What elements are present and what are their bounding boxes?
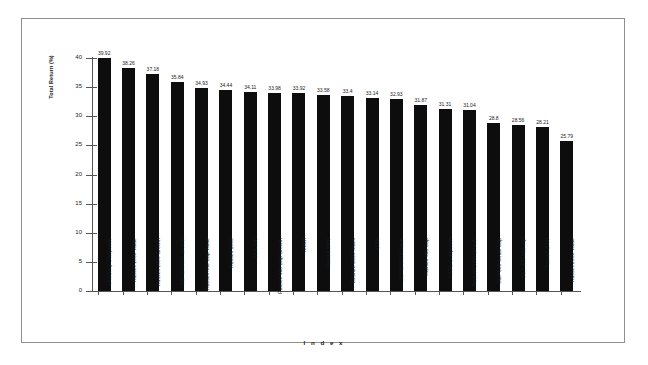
bar-value-label: 34.93	[188, 80, 215, 86]
x-axis-tick-mark	[342, 291, 343, 295]
y-axis-tick-label: 10	[75, 229, 82, 235]
bar-value-label: 28.21	[529, 119, 556, 125]
bar-value-label: 32.93	[383, 91, 410, 97]
y-axis-tick-label: 0	[79, 287, 82, 293]
y-axis-tick-label: 35	[75, 83, 82, 89]
x-axis-tick-mark	[488, 291, 489, 295]
x-axis-label: AMWI	[301, 238, 307, 298]
x-axis-label: NASDAQ Composite	[106, 238, 112, 298]
x-axis-tick-mark	[390, 291, 391, 295]
y-axis-tick: 30	[22, 116, 92, 117]
bar-value-label: 31.31	[432, 101, 459, 107]
x-axis-label: Russell 1000	[228, 238, 234, 298]
x-axis-tick-mark	[98, 291, 99, 295]
y-axis-tick: 40	[22, 58, 92, 59]
bar-value-label: 33.4	[334, 88, 361, 94]
x-axis-label: Russell 1000 Growth	[155, 238, 161, 298]
y-axis-tick: 10	[22, 233, 92, 234]
plot-area: 39.9238.2637.1835.8434.9334.4434.1133.98…	[92, 58, 579, 291]
bar-value-label: 31.87	[407, 97, 434, 103]
x-axis-label: Russell Mid Cap	[423, 238, 429, 298]
x-axis-label: Russell Mid Cap Value	[204, 238, 210, 298]
x-axis-tick-mark	[171, 291, 172, 295]
x-axis-tick-mark	[220, 291, 221, 295]
bar-value-label: 25.79	[553, 133, 580, 139]
y-axis-tick-label: 15	[75, 200, 82, 206]
x-axis-label: DJIA	[374, 238, 380, 298]
y-axis-tick: 5	[22, 262, 92, 263]
x-axis-tick-mark	[512, 291, 513, 295]
bar-value-label: 28.56	[505, 117, 532, 123]
y-axis-tick: 35	[22, 87, 92, 88]
bar-value-label: 34.44	[212, 82, 239, 88]
x-axis-tick-mark	[196, 291, 197, 295]
bar-value-label: 39.92	[91, 50, 118, 56]
y-axis-tick-label: 30	[75, 112, 82, 118]
x-axis-tick-mark	[269, 291, 270, 295]
x-axis-tick-mark	[463, 291, 464, 295]
x-axis-tick-mark	[536, 291, 537, 295]
x-axis-label: S&P 600 Small Cap	[496, 238, 502, 298]
bar-value-label: 33.14	[359, 90, 386, 96]
x-axis-tick-mark	[317, 291, 318, 295]
x-axis-tick-mark	[123, 291, 124, 295]
x-axis-label: Wilshire 5000 Index	[350, 238, 356, 298]
x-axis-line	[92, 291, 581, 292]
bar-value-label: 37.18	[139, 66, 166, 72]
bar-value-label: 28.8	[480, 115, 507, 121]
bar-value-label: 31.04	[456, 102, 483, 108]
x-axis-title: I n d e x	[22, 339, 626, 346]
chart-frame: Total Return (%) 4035302520151050 39.923…	[21, 18, 625, 343]
x-axis-label: Russell 2000 Value	[569, 238, 575, 298]
y-axis-tick-label: 20	[75, 171, 82, 177]
x-axis-label: Russell 2000	[544, 238, 550, 298]
x-axis-label: Russell 1000 Value	[131, 238, 137, 298]
y-axis-tick: 25	[22, 145, 92, 146]
x-axis-label: S&P 500	[252, 238, 258, 298]
bar-value-label: 38.26	[115, 60, 142, 66]
x-axis-label: S&P 400 Mid-cap	[520, 238, 526, 298]
x-axis-tick-mark	[415, 291, 416, 295]
bar-value-label: 33.58	[310, 87, 337, 93]
y-axis-tick: 0	[22, 291, 92, 292]
x-axis-tick-mark	[293, 291, 294, 295]
y-axis-tick-label: 5	[79, 258, 82, 264]
x-axis-label: Russell 3000	[325, 238, 331, 298]
bar-value-label: 33.98	[261, 85, 288, 91]
y-axis-tick: 15	[22, 204, 92, 205]
bar-value-label: 34.11	[237, 84, 264, 90]
x-axis-label: Russell 2000 Growth	[471, 238, 477, 298]
x-axis-tick-mark	[147, 291, 148, 295]
page-canvas: Total Return (%) 4035302520151050 39.923…	[0, 0, 648, 365]
x-axis-label: NYSE Composite	[447, 238, 453, 298]
x-axis-label: S&P/BARRA Value	[398, 238, 404, 298]
y-axis-tick-label: 25	[75, 141, 82, 147]
y-axis-tick: 20	[22, 175, 92, 176]
bar-value-label: 35.84	[164, 74, 191, 80]
x-axis-label: S&P/BARRA Growth	[179, 238, 185, 298]
x-axis-tick-mark	[244, 291, 245, 295]
x-axis-label: Russell Mid Cap Growth	[277, 238, 283, 298]
x-axis-tick-mark	[561, 291, 562, 295]
y-axis-title: Total Return (%)	[48, 17, 54, 137]
y-axis-tick-label: 40	[75, 54, 82, 60]
x-axis-tick-mark	[439, 291, 440, 295]
bar-value-label: 33.92	[285, 85, 312, 91]
x-axis-tick-mark	[366, 291, 367, 295]
